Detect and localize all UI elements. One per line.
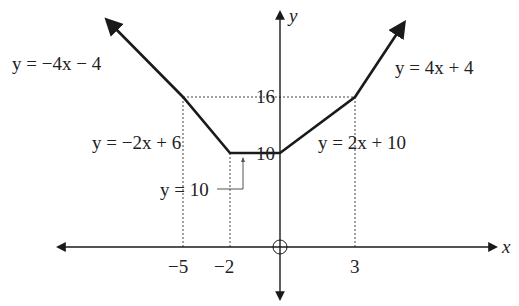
y-axis-label: y [287,5,298,26]
tick-x-neg5: −5 [168,256,188,277]
label-seg-left-steep: y = −4x − 4 [12,53,102,74]
piecewise-graph: y = −4x − 4 y = −2x + 6 y = 10 y = 2x + … [0,0,519,306]
tick-y-10: 10 [256,143,275,164]
x-axis-label: x [501,236,511,257]
guide-lines [183,97,355,247]
tick-x-neg2: −2 [214,256,234,277]
label-seg-left-mid: y = −2x + 6 [92,132,181,153]
tick-y-16: 16 [256,86,275,107]
tick-x-3: 3 [350,256,360,277]
label-seg-right-mid: y = 2x + 10 [318,132,406,153]
label-seg-flat: y = 10 [160,179,209,200]
axes [58,12,496,299]
label-seg-right-steep: y = 4x + 4 [395,57,474,78]
